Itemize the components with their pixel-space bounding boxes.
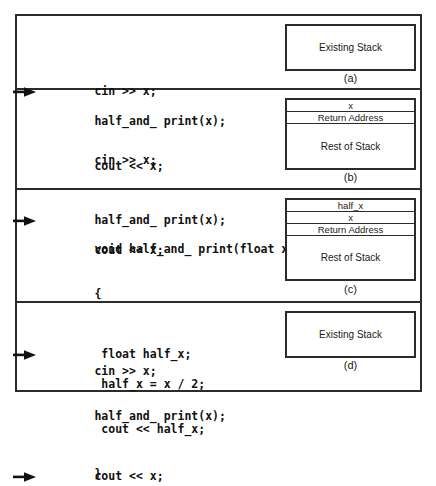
stack-cell-rest-of-stack: Rest of Stack xyxy=(287,124,414,168)
panel-caption-b: (b) xyxy=(285,171,416,183)
stack-diagram-a: Existing Stack xyxy=(285,24,416,71)
figure-frame: cin >> x; half_and_ print(x); cout << x;… xyxy=(15,14,422,392)
code-text: cout << x; xyxy=(94,469,163,484)
stack-cell-return-address: Return Address xyxy=(287,224,414,236)
panel-caption-c: (c) xyxy=(285,283,416,295)
stack-cell-x: x xyxy=(287,212,414,224)
stack-cell-half-x: half_x xyxy=(287,200,414,212)
panel-d: cin >> x; half_and_ print(x); cout << x;… xyxy=(17,303,420,390)
panel-caption-d: (d) xyxy=(285,359,416,371)
stack-cell-x: x xyxy=(287,100,414,112)
existing-stack-label: Existing Stack xyxy=(287,26,414,69)
code-line: cin >> x; xyxy=(39,54,226,69)
panel-c: void half_and_ print(float x) { float ha… xyxy=(17,190,420,303)
code-text: half_and_ print(x); xyxy=(94,409,226,424)
code-block-d: cin >> x; half_and_ print(x); cout << x; xyxy=(39,319,226,484)
stack-cell-rest-of-stack: Rest of Stack xyxy=(287,236,414,279)
panel-a: cin >> x; half_and_ print(x); cout << x;… xyxy=(17,16,420,90)
code-line: cin >> x; xyxy=(39,349,226,364)
code-line: { xyxy=(39,272,295,287)
stack-diagram-b: x Return Address Rest of Stack xyxy=(285,98,416,170)
panel-b: cin >> x; half_and_ print(x); cout << x;… xyxy=(17,90,420,190)
stack-diagram-c: half_x x Return Address Rest of Stack xyxy=(285,198,416,281)
code-text: void half_and_ print(float x) xyxy=(94,242,295,257)
code-line: half_and_ print(x); xyxy=(39,394,226,409)
execution-pointer-arrow-icon xyxy=(13,57,37,67)
code-text: cin >> x; xyxy=(94,364,156,379)
stack-cell-return-address: Return Address xyxy=(287,112,414,124)
code-line: cout << x; xyxy=(39,439,226,454)
code-text: { xyxy=(94,287,101,302)
stack-diagram-d: Existing Stack xyxy=(285,311,416,358)
existing-stack-label: Existing Stack xyxy=(287,313,414,356)
code-line: void half_and_ print(float x) xyxy=(39,227,295,242)
code-text: cin >> x; xyxy=(94,153,156,168)
panel-caption-a: (a) xyxy=(285,72,416,84)
code-line: cin >> x; xyxy=(39,138,226,153)
execution-pointer-arrow-icon xyxy=(13,442,37,452)
